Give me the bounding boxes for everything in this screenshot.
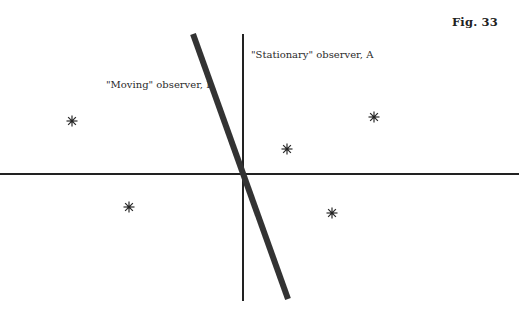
asterisk-icon (124, 202, 135, 213)
event-markers (67, 112, 380, 219)
asterisk-icon (67, 116, 78, 127)
spacetime-diagram (0, 0, 519, 328)
asterisk-icon (282, 144, 293, 155)
asterisk-icon (327, 208, 338, 219)
moving-observer-worldline (193, 34, 288, 299)
asterisk-icon (369, 112, 380, 123)
